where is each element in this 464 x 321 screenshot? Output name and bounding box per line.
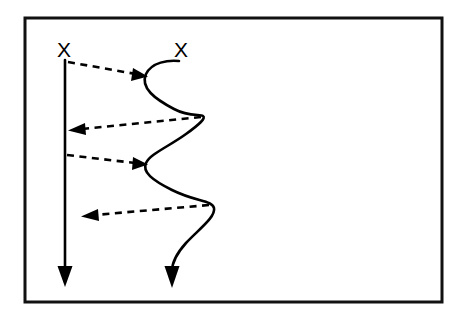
diagram-frame-border — [25, 18, 442, 302]
diagram-figure: X X — [0, 0, 464, 321]
left-node-label: X — [57, 38, 71, 61]
right-node-label: X — [174, 38, 188, 61]
diagram-canvas: X X — [0, 0, 464, 321]
